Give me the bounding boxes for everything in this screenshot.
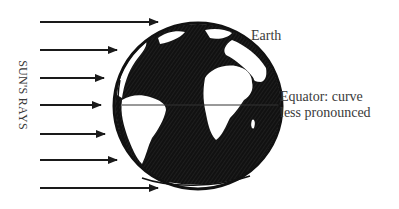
equator-label: Equator: curve less pronounced: [280, 89, 371, 121]
equator-label-line1: Equator: curve: [280, 89, 371, 105]
earth-label: Earth: [251, 29, 281, 43]
earth-globe-icon: [114, 23, 282, 192]
sun-rays-label: SUN'S RAYS: [14, 56, 30, 134]
sun-rays-label-text: SUN'S RAYS: [15, 60, 30, 130]
equator-label-line2: less pronounced: [280, 105, 371, 121]
